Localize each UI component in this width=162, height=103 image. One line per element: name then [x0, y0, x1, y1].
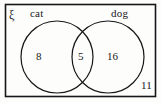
region-count-neither: 11: [141, 80, 152, 91]
region-count-both: 5: [78, 51, 84, 62]
region-count-cat-only: 8: [36, 51, 42, 62]
region-count-dog-only: 16: [107, 51, 118, 62]
venn-diagram-figure: ξ cat dog 8 5 16 11: [0, 0, 162, 103]
set-label-dog: dog: [111, 8, 128, 19]
universal-set-symbol: ξ: [9, 9, 14, 21]
set-label-cat: cat: [30, 8, 43, 19]
